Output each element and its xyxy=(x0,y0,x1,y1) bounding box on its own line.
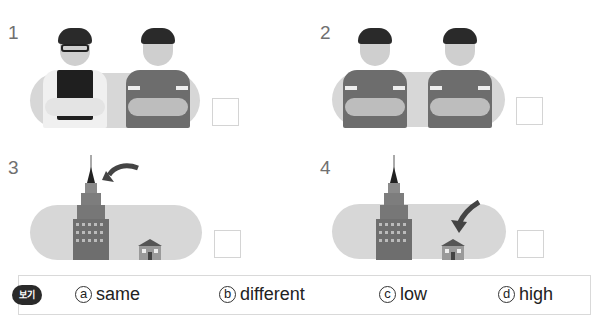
question-number: 1 xyxy=(8,22,19,44)
option-marker: a xyxy=(75,286,92,303)
option-d: dhigh xyxy=(498,284,553,305)
question-number: 4 xyxy=(320,157,331,179)
option-a: asame xyxy=(75,284,140,305)
answer-box[interactable] xyxy=(214,230,241,258)
example-badge: 보기 xyxy=(12,285,42,305)
option-marker: c xyxy=(379,286,396,303)
word-bank: 보기 asame bdifferent clow dhigh xyxy=(18,275,591,315)
option-label: same xyxy=(96,284,140,304)
answer-box[interactable] xyxy=(517,230,544,258)
option-marker: d xyxy=(498,286,515,303)
option-c: clow xyxy=(379,284,427,305)
small-house-image xyxy=(136,238,164,260)
skyscraper-image xyxy=(373,155,415,260)
option-marker: b xyxy=(219,286,236,303)
image-pill xyxy=(30,205,202,260)
option-b: bdifferent xyxy=(219,284,305,305)
option-label: different xyxy=(240,284,305,304)
option-label: low xyxy=(400,284,427,304)
answer-box[interactable] xyxy=(212,98,239,126)
arrow-icon xyxy=(447,200,483,234)
answer-box[interactable] xyxy=(516,97,543,125)
arrow-icon xyxy=(100,163,140,185)
question-number: 2 xyxy=(320,22,331,44)
small-house-image xyxy=(439,238,467,260)
question-number: 3 xyxy=(8,157,19,179)
option-label: high xyxy=(519,284,553,304)
